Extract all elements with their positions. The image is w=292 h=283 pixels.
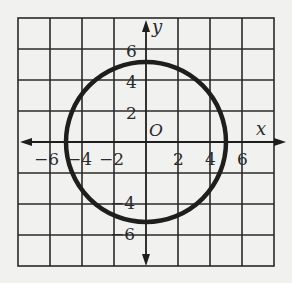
x-tick-6: 6 (237, 149, 248, 169)
coordinate-plane: y x O 6 4 2 −4 −6 −6 −4 −2 2 4 6 (0, 0, 292, 283)
origin-label: O (149, 120, 163, 140)
y-tick-neg4: −4 (110, 193, 135, 213)
y-tick-4: 4 (126, 72, 137, 92)
x-tick-neg6: −6 (34, 149, 59, 169)
x-tick-neg2: −2 (99, 149, 124, 169)
y-tick-2: 2 (126, 103, 137, 123)
x-tick-4: 4 (205, 149, 216, 169)
x-axis-arrow-right-icon (274, 138, 286, 146)
y-tick-neg6: −6 (110, 224, 135, 244)
x-tick-neg4: −4 (67, 149, 92, 169)
y-axis-arrow-down-icon (142, 254, 150, 266)
y-axis-label: y (151, 16, 163, 37)
x-tick-2: 2 (173, 149, 184, 169)
x-axis-label: x (256, 118, 266, 139)
y-axis-arrow-up-icon (142, 20, 150, 32)
y-tick-6: 6 (126, 41, 137, 61)
x-axis-arrow-left-icon (20, 138, 32, 146)
